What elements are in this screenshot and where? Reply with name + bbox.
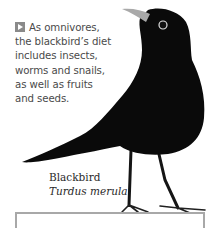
- species-label: Blackbird Turdus merula: [49, 170, 128, 198]
- scientific-name: Turdus merula: [49, 184, 128, 198]
- left-leg: [129, 150, 131, 205]
- bird-body: [22, 9, 204, 163]
- common-name: Blackbird: [49, 170, 128, 184]
- bird-beak: [122, 9, 150, 22]
- left-foot: [122, 205, 148, 212]
- right-leg: [158, 150, 178, 208]
- info-box: [15, 212, 205, 228]
- bird-eye: [159, 21, 167, 29]
